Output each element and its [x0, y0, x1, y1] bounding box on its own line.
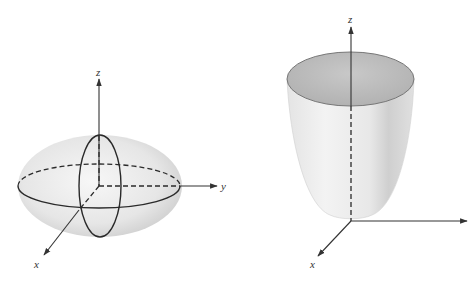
y-axis-label: y — [220, 180, 226, 192]
x-axis-label: x — [33, 258, 39, 270]
z-axis-label: z — [95, 66, 101, 78]
paraboloid-figure: z x — [287, 13, 467, 270]
x-axis — [318, 221, 351, 256]
z-axis-label: z — [347, 13, 353, 25]
diagram-canvas: z y x z x — [0, 0, 468, 284]
x-axis-label: x — [309, 258, 315, 270]
ellipsoid-figure: z y x — [18, 66, 226, 270]
